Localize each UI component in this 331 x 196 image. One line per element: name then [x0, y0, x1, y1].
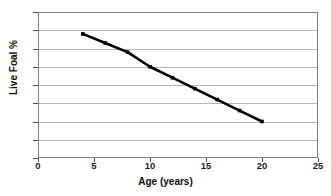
chart-container: Live Foal % Age (years) 4045505560657075…	[0, 0, 331, 196]
x-tick-label: 0	[26, 161, 50, 171]
y-tick-mark	[33, 49, 38, 50]
y-tick-mark	[33, 85, 38, 86]
y-gridline	[39, 85, 317, 86]
y-tick-mark	[33, 30, 38, 31]
x-tick-label: 15	[194, 161, 218, 171]
y-tick-mark	[33, 122, 38, 123]
y-gridline	[39, 103, 317, 104]
y-axis-title: Live Foal %	[8, 3, 19, 133]
y-gridline	[39, 122, 317, 123]
y-tick-mark	[33, 103, 38, 104]
plot-area	[38, 12, 318, 158]
y-gridline	[39, 49, 317, 50]
x-tick-label: 25	[306, 161, 330, 171]
x-axis-title: Age (years)	[0, 176, 331, 187]
y-tick-mark	[33, 140, 38, 141]
y-tick-mark	[33, 12, 38, 13]
x-tick-label: 10	[138, 161, 162, 171]
x-tick-label: 20	[250, 161, 274, 171]
x-tick-label: 5	[82, 161, 106, 171]
y-tick-mark	[33, 67, 38, 68]
caption-sliver	[8, 190, 323, 196]
y-gridline	[39, 30, 317, 31]
y-gridline	[39, 140, 317, 141]
y-gridline	[39, 67, 317, 68]
